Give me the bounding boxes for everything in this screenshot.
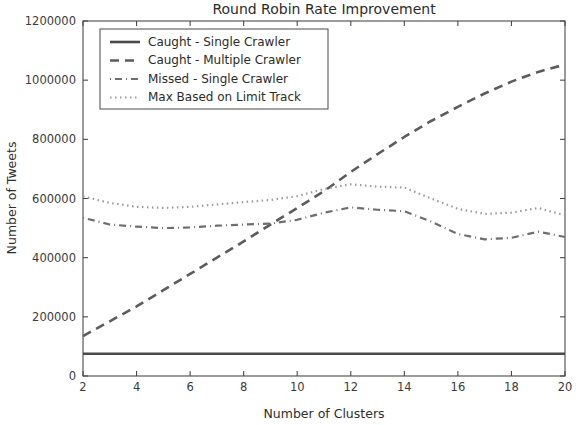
x-tick-label: 16 bbox=[451, 380, 466, 394]
chart-figure: Round Robin Rate Improvement Number of T… bbox=[0, 0, 576, 425]
legend-label-0: Caught - Single Crawler bbox=[148, 35, 290, 49]
series-line-3 bbox=[83, 184, 565, 215]
y-tick-label: 800000 bbox=[32, 132, 76, 146]
y-tick-label: 600000 bbox=[32, 192, 76, 206]
x-tick-label: 6 bbox=[186, 380, 193, 394]
y-tick-label: 0 bbox=[69, 369, 76, 383]
y-tick-label: 200000 bbox=[32, 310, 76, 324]
y-axis-title: Number of Tweets bbox=[4, 142, 19, 255]
y-tick-label: 400000 bbox=[32, 251, 76, 265]
x-tick-label: 10 bbox=[290, 380, 305, 394]
x-tick-label: 20 bbox=[558, 380, 573, 394]
x-tick-label: 4 bbox=[133, 380, 140, 394]
y-tick-label: 1200000 bbox=[25, 14, 76, 28]
legend-label-1: Caught - Multiple Crawler bbox=[148, 53, 301, 67]
chart-legend: Caught - Single CrawlerCaught - Multiple… bbox=[100, 29, 328, 109]
legend-label-2: Missed - Single Crawler bbox=[148, 72, 288, 86]
x-axis-title: Number of Clusters bbox=[263, 406, 384, 421]
x-tick-label: 12 bbox=[343, 380, 358, 394]
legend-label-3: Max Based on Limit Track bbox=[148, 90, 301, 104]
x-tick-label: 8 bbox=[240, 380, 247, 394]
x-tick-label: 2 bbox=[79, 380, 86, 394]
x-tick-label: 18 bbox=[504, 380, 519, 394]
series-line-2 bbox=[83, 207, 565, 239]
y-tick-label: 1000000 bbox=[25, 73, 76, 87]
plot-canvas: Round Robin Rate Improvement Number of T… bbox=[0, 0, 576, 425]
chart-title: Round Robin Rate Improvement bbox=[212, 1, 436, 17]
x-tick-label: 14 bbox=[397, 380, 412, 394]
